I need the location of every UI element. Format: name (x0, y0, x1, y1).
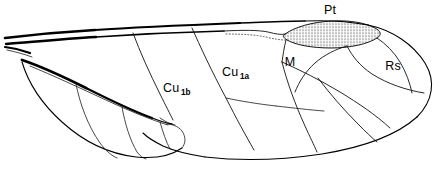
label-cubitus-1a-subscript: 1a (240, 72, 250, 81)
wing-diagram-svg: Pt M Rs Cu 1a Cu 1b (0, 0, 447, 179)
label-pterostigma: Pt (324, 3, 337, 17)
label-cubitus-1a-base: Cu (222, 65, 238, 79)
label-radial-sector: Rs (385, 59, 401, 73)
label-cubitus-1b-subscript: 1b (181, 88, 191, 97)
wing-venation-figure: Pt M Rs Cu 1a Cu 1b (0, 0, 447, 179)
wing-membrane (6, 24, 433, 160)
label-cubitus-1b-base: Cu (163, 81, 179, 95)
label-media: M (285, 55, 296, 69)
